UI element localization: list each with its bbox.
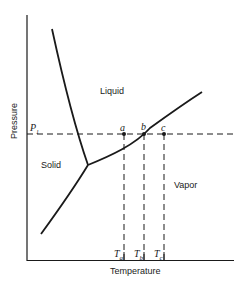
region-label-vapor: Vapor [174, 180, 197, 190]
tb-sub: b [140, 254, 144, 262]
region-label-solid: Solid [41, 160, 61, 170]
p1-sub: 1 [36, 129, 39, 135]
fusion-curve [52, 29, 88, 165]
sublimation-curve [41, 165, 88, 234]
y-axis-label: Pressure [9, 99, 19, 143]
phase-diagram-canvas [0, 0, 246, 285]
point-c-label: c [161, 122, 165, 133]
pressure-p1-label: P1 [30, 122, 39, 135]
tc-label: Tc [154, 248, 163, 262]
ta-sub: a [120, 254, 124, 262]
region-label-liquid: Liquid [100, 86, 124, 96]
point-b [142, 132, 146, 136]
point-a-label: a [120, 122, 125, 133]
ta-label: Ta [114, 248, 123, 262]
tb-label: Tb [134, 248, 143, 262]
point-b-label: b [141, 121, 146, 132]
x-axis-label: Temperature [110, 266, 161, 276]
tc-sub: c [160, 254, 163, 262]
